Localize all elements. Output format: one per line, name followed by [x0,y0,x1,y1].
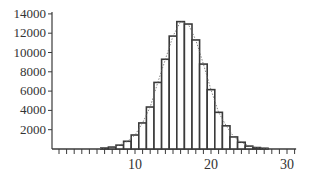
histogram-bar [124,141,132,149]
y-tick-label: 4000 [20,102,46,117]
histogram-bar [184,24,192,149]
y-tick-label: 2000 [20,122,46,137]
x-tick-label: 10 [128,157,142,172]
x-axis: 102030 [52,149,296,172]
histogram-bar [253,148,261,149]
histogram-bar [154,82,162,149]
histogram-bars [101,22,268,149]
histogram-bar [116,145,124,149]
histogram-chart: 2000400060008000100001200014000 102030 [0,0,312,179]
x-tick-label: 20 [204,157,218,172]
y-tick-label: 12000 [14,25,47,40]
y-tick-label: 6000 [20,83,46,98]
histogram-bar [131,135,139,149]
y-tick-label: 14000 [14,6,47,21]
histogram-bar [101,148,109,149]
histogram-bar [177,22,185,149]
histogram-bar [192,40,200,149]
y-axis: 2000400060008000100001200014000 [14,6,53,149]
histogram-bar [207,90,215,149]
y-tick-label: 8000 [20,64,46,79]
histogram-bar [215,112,223,149]
histogram-bar [200,64,208,149]
x-tick-label: 30 [280,157,294,172]
histogram-bar [169,36,177,149]
histogram-bar [162,59,170,149]
y-tick-label: 10000 [14,45,47,60]
